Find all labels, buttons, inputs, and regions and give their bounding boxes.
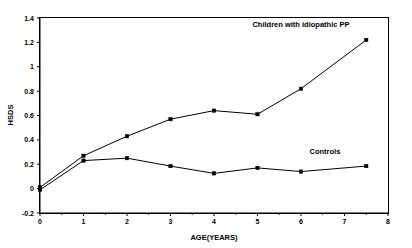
- y-tick-label: -0.2: [22, 210, 34, 217]
- y-axis-title: HSDS: [6, 105, 15, 126]
- x-tick-label: 0: [38, 218, 42, 225]
- data-point-marker: [299, 87, 302, 90]
- data-point-marker: [256, 166, 259, 169]
- x-tick-label: 8: [386, 218, 390, 225]
- y-tick-label: 1.4: [24, 15, 34, 22]
- x-tick-label: 6: [299, 218, 303, 225]
- y-tick-label: 0.6: [24, 112, 34, 119]
- data-point-marker: [125, 135, 128, 138]
- x-tick-label: 4: [212, 218, 216, 225]
- x-tick-label: 1: [82, 218, 86, 225]
- y-tick-label: 0.4: [24, 136, 34, 143]
- x-tick-label: 7: [343, 218, 347, 225]
- data-point-marker: [169, 117, 172, 120]
- data-point-marker: [125, 156, 128, 159]
- y-tick-label: 1.2: [24, 39, 34, 46]
- y-tick-label: 0.8: [24, 88, 34, 95]
- data-point-marker: [299, 170, 302, 173]
- data-point-marker: [38, 188, 41, 191]
- data-point-marker: [212, 109, 215, 112]
- series-label-2: Controls: [310, 147, 341, 156]
- chart-figure: -0.200.20.40.60.811.21.4 012345678 Child…: [0, 0, 412, 248]
- x-tick-label: 5: [256, 218, 260, 225]
- x-axis-title: AGE(YEARS): [190, 233, 238, 242]
- chart-background: [0, 0, 412, 248]
- data-point-marker: [256, 113, 259, 116]
- x-tick-label: 2: [125, 218, 129, 225]
- data-point-marker: [365, 164, 368, 167]
- y-tick-label: 1: [30, 63, 34, 70]
- x-tick-label: 3: [169, 218, 173, 225]
- data-point-marker: [212, 172, 215, 175]
- y-tick-label: 0: [30, 185, 34, 192]
- data-point-marker: [365, 38, 368, 41]
- line-chart: -0.200.20.40.60.811.21.4 012345678 Child…: [0, 0, 412, 248]
- data-point-marker: [82, 159, 85, 162]
- series-label-1: Children with idiopathic PP: [252, 20, 349, 29]
- y-tick-label: 0.2: [24, 161, 34, 168]
- data-point-marker: [82, 154, 85, 157]
- data-point-marker: [169, 164, 172, 167]
